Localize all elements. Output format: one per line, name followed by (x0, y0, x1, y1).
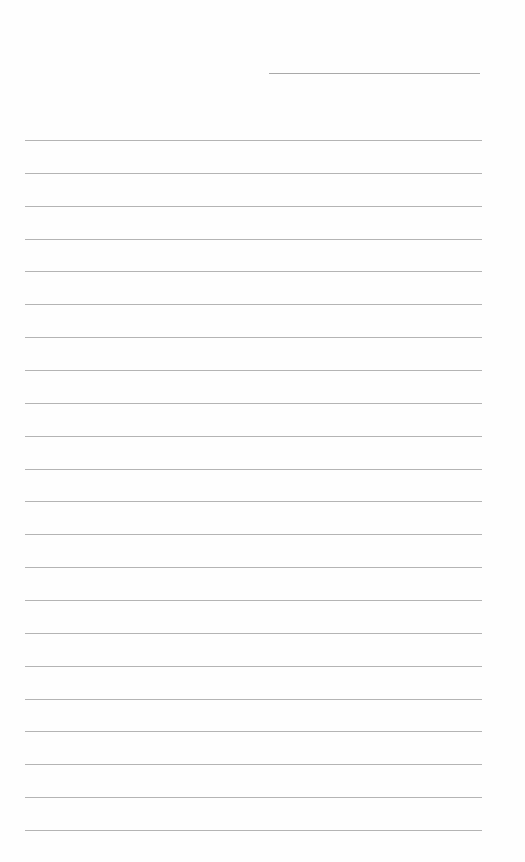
ruled-line (25, 140, 482, 141)
ruled-line (25, 436, 482, 437)
lined-paper-page (0, 0, 525, 862)
ruled-line (25, 600, 482, 601)
ruled-line (25, 830, 482, 831)
ruled-line (25, 666, 482, 667)
ruled-line (25, 699, 482, 700)
ruled-line (25, 764, 482, 765)
ruled-line (25, 567, 482, 568)
ruled-line (25, 534, 482, 535)
ruled-line (25, 173, 482, 174)
ruled-line (25, 304, 482, 305)
ruled-line (25, 633, 482, 634)
ruled-line (25, 370, 482, 371)
ruled-line (25, 271, 482, 272)
ruled-line (25, 206, 482, 207)
ruled-line (25, 239, 482, 240)
ruled-line (25, 731, 482, 732)
ruled-line (25, 469, 482, 470)
ruled-line (25, 797, 482, 798)
ruled-line (25, 337, 482, 338)
ruled-line (25, 501, 482, 502)
ruled-line (25, 403, 482, 404)
header-name-line (269, 73, 480, 74)
